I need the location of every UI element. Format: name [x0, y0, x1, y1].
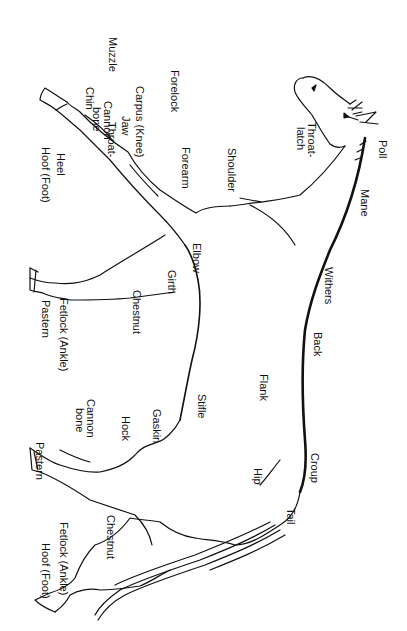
label-carpus: Carpus (Knee): [134, 86, 146, 158]
label-muzzle: Muzzle: [107, 37, 119, 72]
label-elbow: Elbow: [191, 243, 203, 273]
label-forelock: Forelock: [169, 70, 181, 112]
label-cannon-front-1: Cannon: [102, 101, 114, 140]
label-throatlatch-1: Throat-: [306, 122, 318, 157]
horse-anatomy-diagram: Muzzle Forelock Chin Jaw Throat- Throat-…: [0, 0, 407, 631]
label-flank: Flank: [258, 374, 270, 401]
label-tail: Tail: [285, 508, 297, 525]
label-heel: Heel: [55, 153, 67, 176]
label-cannon-hind-2: bone: [74, 408, 86, 432]
label-fetlock-hind: Fetlock (Ankle): [58, 522, 70, 595]
label-chestnut-front: Chestnut: [131, 290, 143, 334]
label-cannon-hind-1: Cannon: [85, 399, 97, 438]
label-pastern-front: Pastern: [40, 300, 52, 338]
label-mane: Mane: [359, 189, 371, 217]
label-hip: Hip: [252, 468, 264, 485]
label-girth: Girth: [166, 270, 178, 294]
label-throatlatch-2: latch: [295, 127, 307, 150]
label-back: Back: [312, 332, 324, 356]
label-gaskin: Gaskin: [151, 409, 163, 443]
label-hock: Hock: [120, 416, 132, 441]
label-chestnut-hind: Chestnut: [105, 515, 117, 559]
label-shoulder: Shoulder: [226, 148, 238, 192]
label-croup: Croup: [309, 453, 321, 483]
label-stifle: Stifle: [196, 394, 208, 418]
label-cannon-front-2: bone: [91, 107, 103, 131]
label-fetlock-front: Fetlock (Ankle): [58, 298, 70, 371]
label-hoof-hind: Hoof (Foot): [40, 543, 52, 599]
label-poll: Poll: [377, 140, 389, 158]
label-forearm: Forearm: [180, 147, 192, 189]
label-jaw: Jaw: [120, 116, 132, 136]
label-hoof-front: Hoof (Foot): [40, 147, 52, 203]
label-pastern-hind: Pastern: [34, 442, 46, 480]
label-withers: Withers: [323, 267, 335, 304]
